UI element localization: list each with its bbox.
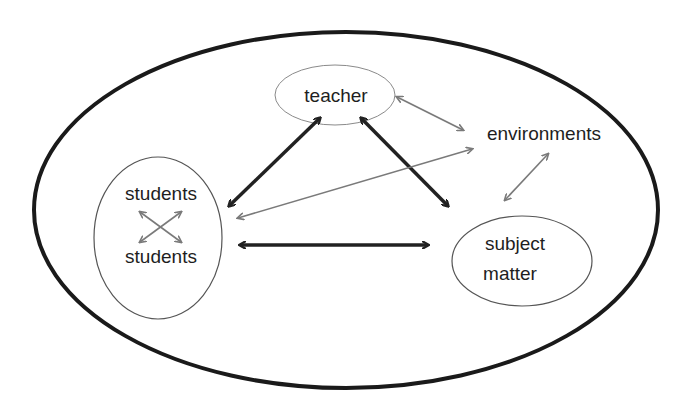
subject-label: subject	[485, 234, 545, 253]
teacher-subject-arrow	[361, 118, 448, 206]
students-top-label: students	[125, 184, 197, 203]
environments-subject-arrow	[505, 154, 548, 200]
environments-label: environments	[487, 124, 601, 143]
matter-label: matter	[483, 264, 537, 283]
students-node	[94, 157, 222, 319]
subject-matter-node	[452, 216, 592, 306]
diagram-canvas	[0, 0, 682, 409]
teacher-students-arrow	[229, 118, 320, 206]
students-environments-arrow	[238, 149, 472, 218]
students-bottom-label: students	[125, 247, 197, 266]
teacher-environments-arrow	[397, 97, 463, 130]
teacher-label: teacher	[304, 86, 367, 105]
